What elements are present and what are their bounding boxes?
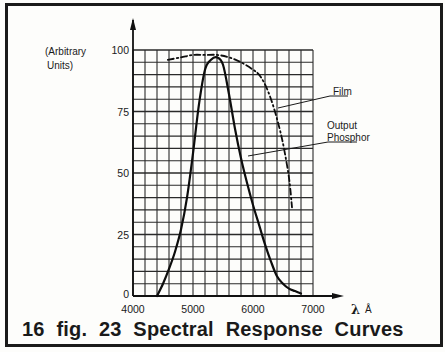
y-axis-label-line2: Units) <box>45 59 86 73</box>
y-axis-label: (Arbitrary Units) <box>45 45 86 73</box>
x-tick-label: 5000 <box>181 303 205 315</box>
y-tick-label: 75 <box>117 106 129 118</box>
output-phosphor-label: Output Phosphor <box>327 120 370 144</box>
y-axis-arrow-icon <box>130 18 136 30</box>
film-label-text: Film <box>333 86 352 97</box>
film-curve <box>168 55 292 208</box>
y-tick-label: 0 <box>123 288 129 300</box>
y-tick-label: 50 <box>117 167 129 179</box>
x-tick-label: 7000 <box>301 303 325 315</box>
phosphor-label-line2: Phosphor <box>327 132 370 144</box>
x-axis-label: λ <box>351 302 360 317</box>
phosphor-label-line1: Output <box>327 120 370 132</box>
x-axis-unit: Å <box>365 303 372 315</box>
chart-grid <box>133 50 313 296</box>
phosphor-leader-line <box>248 142 357 156</box>
film-label: Film <box>333 86 352 98</box>
figure-caption: 16 fig. 23 Spectral Response Curves <box>22 318 404 341</box>
x-tick-label: 4000 <box>121 303 145 315</box>
y-axis-label-line1: (Arbitrary <box>45 45 86 59</box>
y-tick-label: 25 <box>117 229 129 241</box>
x-tick-label: 6000 <box>241 303 265 315</box>
axis-tick-labels: 40005000600070000255075100λÅ <box>111 44 372 317</box>
y-tick-label: 100 <box>111 44 129 56</box>
x-axis-arrow-icon <box>332 293 344 299</box>
